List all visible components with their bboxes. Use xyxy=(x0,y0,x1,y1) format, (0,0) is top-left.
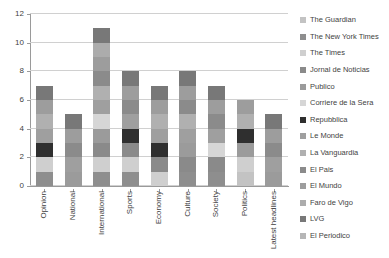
bar-segment[interactable] xyxy=(208,143,225,157)
bar-segment[interactable] xyxy=(179,129,196,143)
bar-segment[interactable] xyxy=(93,28,110,42)
bar-segment[interactable] xyxy=(237,157,254,171)
legend-swatch-icon xyxy=(300,150,306,156)
bar-segment[interactable] xyxy=(122,157,139,171)
stacked-bar[interactable] xyxy=(93,28,110,186)
legend-item[interactable]: El Periodico xyxy=(300,228,388,245)
x-label-slot: Culture xyxy=(173,189,202,255)
bar-slot xyxy=(259,14,288,186)
x-tick-label: Latest headlines xyxy=(270,191,278,249)
bar-segment[interactable] xyxy=(122,129,139,143)
legend-item[interactable]: The Guardian xyxy=(300,12,388,29)
legend-item[interactable]: Publico xyxy=(300,78,388,95)
bar-segment[interactable] xyxy=(151,100,168,114)
legend-item[interactable]: Corriere de la Sera xyxy=(300,95,388,112)
bar-segment[interactable] xyxy=(36,143,53,157)
bar-segment[interactable] xyxy=(208,129,225,143)
bar-segment[interactable] xyxy=(237,114,254,128)
legend-label: The Guardian xyxy=(310,16,356,24)
bar-segment[interactable] xyxy=(265,129,282,143)
stacked-bar[interactable] xyxy=(122,71,139,186)
bar-segment[interactable] xyxy=(93,43,110,57)
bar-segment[interactable] xyxy=(36,100,53,114)
bar-segment[interactable] xyxy=(179,86,196,100)
bar-segment[interactable] xyxy=(237,129,254,143)
x-tick-label: International xyxy=(98,191,106,235)
bar-segment[interactable] xyxy=(65,143,82,157)
bar-segment[interactable] xyxy=(93,114,110,128)
stacked-bar[interactable] xyxy=(179,71,196,186)
bar-segment[interactable] xyxy=(122,143,139,157)
x-tick-label: Opinion xyxy=(40,191,48,219)
bar-segment[interactable] xyxy=(93,129,110,143)
bar-segment[interactable] xyxy=(237,143,254,157)
bar-segment[interactable] xyxy=(93,57,110,71)
bar-segment[interactable] xyxy=(122,86,139,100)
bar-segment[interactable] xyxy=(93,100,110,114)
bar-segment[interactable] xyxy=(208,157,225,171)
bar-segment[interactable] xyxy=(237,172,254,186)
stacked-bar[interactable] xyxy=(208,86,225,186)
legend-item[interactable]: Repubblica xyxy=(300,112,388,129)
legend-item[interactable]: La Vanguardia xyxy=(300,145,388,162)
bar-segment[interactable] xyxy=(237,100,254,114)
bar-segment[interactable] xyxy=(208,100,225,114)
bar-segment[interactable] xyxy=(179,114,196,128)
bar-segment[interactable] xyxy=(122,114,139,128)
x-label-slot: Politics xyxy=(231,189,260,255)
legend-item[interactable]: El Pais xyxy=(300,161,388,178)
stacked-bar[interactable] xyxy=(237,100,254,186)
legend-item[interactable]: LVG xyxy=(300,211,388,228)
bar-segment[interactable] xyxy=(151,129,168,143)
bar-segment[interactable] xyxy=(122,71,139,85)
legend-item[interactable]: Le Monde xyxy=(300,128,388,145)
y-tick-label: 6 xyxy=(0,96,24,104)
bar-segment[interactable] xyxy=(93,143,110,157)
bar-segment[interactable] xyxy=(36,172,53,186)
bar-segment[interactable] xyxy=(151,143,168,157)
legend-item[interactable]: The New York Times xyxy=(300,29,388,46)
bar-segment[interactable] xyxy=(179,172,196,186)
bar-segment[interactable] xyxy=(93,71,110,85)
bar-segment[interactable] xyxy=(122,172,139,186)
x-tick-label: Sports xyxy=(126,191,134,214)
bar-segment[interactable] xyxy=(265,143,282,157)
legend-item[interactable]: Faro de Vigo xyxy=(300,195,388,212)
bar-segment[interactable] xyxy=(208,114,225,128)
stacked-bar[interactable] xyxy=(65,114,82,186)
bar-segment[interactable] xyxy=(151,157,168,171)
legend-swatch-icon xyxy=(300,84,306,90)
bar-segment[interactable] xyxy=(65,172,82,186)
legend-item[interactable]: El Mundo xyxy=(300,178,388,195)
bar-segment[interactable] xyxy=(36,129,53,143)
bar-segment[interactable] xyxy=(179,100,196,114)
legend-item[interactable]: The Times xyxy=(300,45,388,62)
bar-segment[interactable] xyxy=(179,157,196,171)
bar-segment[interactable] xyxy=(65,129,82,143)
bar-segment[interactable] xyxy=(151,114,168,128)
bar-segment[interactable] xyxy=(93,157,110,171)
stacked-bar[interactable] xyxy=(265,114,282,186)
bar-segment[interactable] xyxy=(93,86,110,100)
bar-segment[interactable] xyxy=(122,100,139,114)
bar-segment[interactable] xyxy=(65,114,82,128)
legend-label: Publico xyxy=(310,83,335,91)
bar-segment[interactable] xyxy=(36,86,53,100)
bar-segment[interactable] xyxy=(151,172,168,186)
stacked-bar[interactable] xyxy=(151,86,168,186)
bar-segment[interactable] xyxy=(93,172,110,186)
bar-segment[interactable] xyxy=(265,157,282,171)
legend-swatch-icon xyxy=(300,216,306,222)
bar-segment[interactable] xyxy=(36,157,53,171)
bar-segment[interactable] xyxy=(265,114,282,128)
stacked-bar[interactable] xyxy=(36,86,53,186)
bar-segment[interactable] xyxy=(265,172,282,186)
bar-segment[interactable] xyxy=(208,86,225,100)
bar-segment[interactable] xyxy=(179,143,196,157)
bar-segment[interactable] xyxy=(179,71,196,85)
bar-segment[interactable] xyxy=(208,172,225,186)
bar-segment[interactable] xyxy=(65,157,82,171)
bar-segment[interactable] xyxy=(151,86,168,100)
legend-item[interactable]: Jornal de Noticias xyxy=(300,62,388,79)
bar-segment[interactable] xyxy=(36,114,53,128)
